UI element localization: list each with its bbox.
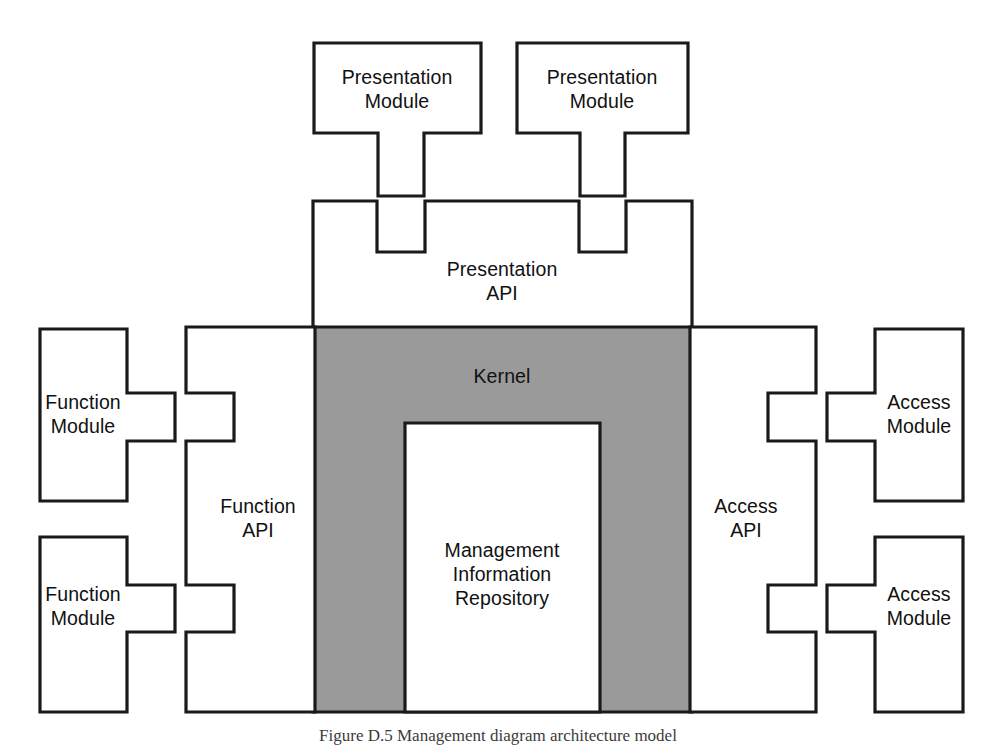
access-api-label-line1: Access	[714, 495, 778, 517]
access-module-bottom-label-line2: Module	[887, 607, 952, 629]
figure-caption: Figure D.5 Management diagram architectu…	[0, 726, 996, 746]
figure-root: Presentation Module Presentation Module …	[0, 0, 996, 748]
function-module-top-label-line2: Module	[51, 415, 116, 437]
access-module-top-label-line1: Access	[887, 391, 951, 413]
presentation-module-right-label-line2: Module	[570, 90, 635, 112]
kernel-label: Kernel	[474, 365, 531, 387]
mir-label-line1: Management	[445, 539, 560, 561]
function-api-label-line1: Function	[220, 495, 296, 517]
access-api-label-line2: API	[730, 519, 762, 541]
presentation-module-left-label-line2: Module	[365, 90, 430, 112]
presentation-module-left-label-line1: Presentation	[342, 66, 453, 88]
mir-label-line2: Information	[453, 563, 552, 585]
mir-label-line3: Repository	[455, 587, 549, 609]
access-module-top-label-line2: Module	[887, 415, 952, 437]
presentation-api-label-line1: Presentation	[447, 258, 558, 280]
access-module-bottom-label-line1: Access	[887, 583, 951, 605]
presentation-api-label-line2: API	[486, 282, 518, 304]
function-api-label-line2: API	[242, 519, 274, 541]
architecture-diagram: Presentation Module Presentation Module …	[0, 0, 996, 748]
function-module-bottom-label-line2: Module	[51, 607, 116, 629]
function-module-bottom-label-line1: Function	[45, 583, 121, 605]
presentation-module-right-label-line1: Presentation	[547, 66, 658, 88]
function-module-top-label-line1: Function	[45, 391, 121, 413]
